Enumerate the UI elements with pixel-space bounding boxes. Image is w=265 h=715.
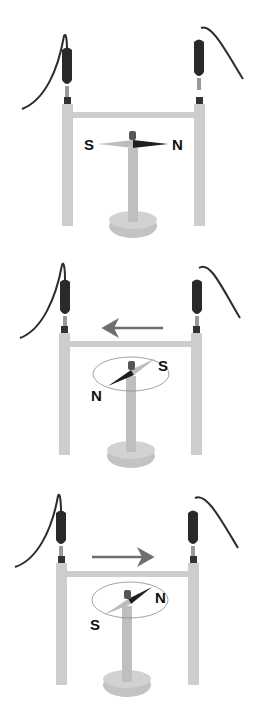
stand-rod	[128, 148, 138, 222]
right-wire	[195, 497, 238, 548]
north-label: N	[172, 136, 183, 153]
right-post	[191, 333, 202, 455]
left-clip	[56, 511, 66, 545]
north-label: N	[91, 387, 102, 404]
crossbar-wire	[72, 112, 195, 118]
left-wire	[22, 35, 67, 109]
left-post	[56, 563, 67, 685]
needle-pivot	[129, 131, 136, 140]
right-clip	[194, 40, 204, 77]
left-post	[62, 104, 73, 226]
crossbar-wire	[69, 341, 192, 347]
left-post-cap	[58, 556, 65, 564]
right-post-cap	[193, 326, 200, 334]
right-post-cap	[190, 556, 197, 564]
oersted-diagram: S N S N	[0, 0, 265, 715]
left-post-cap	[64, 97, 71, 105]
stand-rod	[126, 376, 136, 452]
needle-pivot	[128, 361, 135, 370]
left-clip	[60, 280, 70, 315]
south-label: S	[90, 616, 100, 633]
needle-south	[98, 140, 133, 148]
left-post	[59, 333, 70, 455]
right-clip-pin	[191, 546, 195, 556]
right-post-cap	[196, 97, 203, 105]
left-clip-pin	[59, 546, 63, 556]
right-clip	[192, 280, 202, 315]
north-label: N	[155, 589, 166, 606]
right-clip	[188, 511, 198, 545]
left-clip-pin	[63, 316, 67, 326]
right-post	[194, 104, 205, 226]
left-wire	[20, 264, 65, 338]
needle-pivot	[124, 590, 131, 599]
right-clip-pin	[195, 316, 199, 326]
south-label: S	[84, 136, 94, 153]
left-wire	[15, 495, 61, 567]
left-clip	[62, 48, 72, 85]
left-clip-pin	[65, 86, 69, 98]
right-wire	[201, 28, 243, 79]
panel-current-left: S N	[20, 264, 240, 468]
crossbar-wire	[66, 571, 189, 577]
right-clip-pin	[197, 78, 201, 90]
needle-north	[133, 140, 168, 148]
needle-north	[128, 587, 152, 604]
panel-current-right: N S	[15, 495, 238, 697]
right-post	[188, 563, 199, 685]
south-label: S	[158, 357, 168, 374]
right-wire	[199, 267, 240, 318]
left-post-cap	[61, 326, 68, 334]
panel-no-current: S N	[22, 28, 243, 238]
